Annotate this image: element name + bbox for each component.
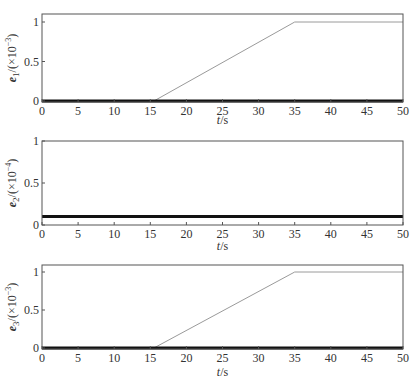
x-tick-label: 40 bbox=[325, 227, 337, 241]
x-tick-label: 45 bbox=[361, 351, 373, 365]
series-line bbox=[42, 22, 403, 101]
x-tick-label: 20 bbox=[180, 351, 192, 365]
y-tick-label: 0 bbox=[33, 94, 39, 108]
x-axis-label: t/s bbox=[217, 113, 229, 127]
x-tick-label: 25 bbox=[217, 351, 229, 365]
error-plots: 0510152025303540455000.51t/se1/(×10−3)05… bbox=[0, 0, 420, 390]
x-tick-label: 40 bbox=[325, 351, 337, 365]
x-tick-label: 15 bbox=[144, 351, 156, 365]
y-tick-label: 1 bbox=[33, 134, 39, 148]
x-tick-label: 30 bbox=[253, 104, 265, 118]
x-tick-label: 30 bbox=[253, 351, 265, 365]
subplot-3: 0510152025303540455000.51t/se3/(×10−3) bbox=[4, 265, 409, 379]
y-tick-label: 0.5 bbox=[24, 176, 39, 190]
y-axis-label: e3/(×10−3) bbox=[4, 283, 21, 331]
x-tick-label: 10 bbox=[108, 351, 120, 365]
x-tick-label: 10 bbox=[108, 227, 120, 241]
axes-frame bbox=[42, 265, 403, 349]
y-tick-label: 0.5 bbox=[24, 55, 39, 69]
x-tick-label: 5 bbox=[75, 104, 81, 118]
y-axis-label: e2/(×10−4) bbox=[4, 159, 21, 207]
x-tick-label: 5 bbox=[75, 351, 81, 365]
x-tick-label: 0 bbox=[39, 104, 45, 118]
y-tick-label: 0.5 bbox=[24, 303, 39, 317]
x-tick-label: 45 bbox=[361, 227, 373, 241]
y-axis-label: e1/(×10−3) bbox=[4, 34, 21, 82]
x-tick-label: 50 bbox=[397, 351, 409, 365]
x-tick-label: 15 bbox=[144, 227, 156, 241]
figure: 0510152025303540455000.51t/se1/(×10−3)05… bbox=[0, 0, 420, 390]
x-tick-label: 50 bbox=[397, 104, 409, 118]
x-tick-label: 50 bbox=[397, 227, 409, 241]
x-tick-label: 10 bbox=[108, 104, 120, 118]
x-tick-label: 20 bbox=[180, 104, 192, 118]
y-tick-label: 0 bbox=[33, 218, 39, 232]
subplot-1: 0510152025303540455000.51t/se1/(×10−3) bbox=[4, 14, 409, 127]
axes-frame bbox=[42, 141, 403, 225]
x-tick-label: 15 bbox=[144, 104, 156, 118]
x-tick-label: 20 bbox=[180, 227, 192, 241]
x-tick-label: 35 bbox=[289, 351, 301, 365]
x-tick-label: 40 bbox=[325, 104, 337, 118]
x-axis-label: t/s bbox=[217, 365, 229, 379]
y-tick-label: 1 bbox=[33, 15, 39, 29]
x-tick-label: 5 bbox=[75, 227, 81, 241]
x-tick-label: 35 bbox=[289, 227, 301, 241]
x-tick-label: 45 bbox=[361, 104, 373, 118]
x-tick-label: 35 bbox=[289, 104, 301, 118]
x-tick-label: 0 bbox=[39, 351, 45, 365]
y-tick-label: 0 bbox=[33, 341, 39, 355]
subplot-2: 0510152025303540455000.51t/se2/(×10−4) bbox=[4, 134, 409, 253]
x-tick-label: 30 bbox=[253, 227, 265, 241]
y-tick-label: 1 bbox=[33, 265, 39, 279]
axes-frame bbox=[42, 14, 403, 102]
series-line bbox=[42, 272, 403, 348]
x-tick-label: 0 bbox=[39, 227, 45, 241]
x-axis-label: t/s bbox=[217, 239, 229, 253]
